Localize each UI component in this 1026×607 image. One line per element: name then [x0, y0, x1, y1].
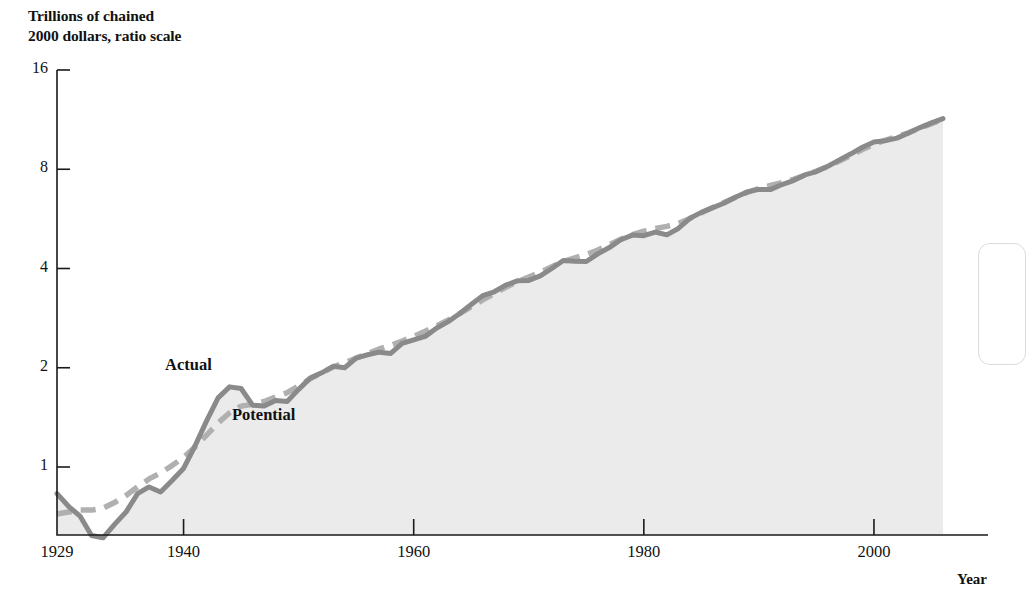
x-tick-label: 1929	[17, 542, 97, 562]
y-tick-label: 16	[8, 59, 48, 77]
area-fill-layer	[57, 119, 943, 538]
x-tick-label: 1960	[374, 542, 454, 562]
series-label-actual: Actual	[165, 355, 212, 375]
x-tick-label: 1940	[144, 542, 224, 562]
x-tick-label: 1980	[604, 542, 684, 562]
y-tick-label: 4	[8, 258, 48, 276]
x-axis-title: Year	[957, 571, 987, 588]
y-tick-label: 8	[8, 158, 48, 176]
x-tick-label: 2000	[834, 542, 914, 562]
series-label-potential: Potential	[232, 405, 295, 425]
y-tick-label: 1	[8, 456, 48, 474]
y-tick-label: 2	[8, 357, 48, 375]
